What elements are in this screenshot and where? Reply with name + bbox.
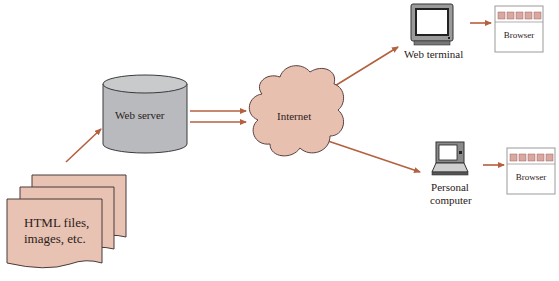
personal-computer-label-line2: computer (430, 194, 470, 207)
html-files-label-line2: images, etc. (24, 231, 89, 247)
html-files-label-line1: HTML files, (24, 215, 89, 231)
personal-computer-label-line1: Personal (430, 181, 470, 194)
web-server-label: Web server (115, 109, 165, 121)
browser-window-bottom-icon (507, 148, 555, 194)
personal-computer-laptop-icon (432, 142, 468, 175)
arrow-files-to-server (66, 129, 101, 162)
personal-computer-label: Personal computer (430, 181, 470, 207)
web-terminal-label: Web terminal (404, 48, 463, 60)
web-terminal-monitor-icon (411, 4, 453, 45)
html-files-label: HTML files, images, etc. (24, 215, 89, 247)
internet-label: Internet (277, 110, 311, 122)
arrow-internet-to-pc (325, 140, 420, 172)
browser-bottom-label: Browser (507, 172, 555, 182)
browser-window-top-icon (495, 6, 543, 52)
browser-top-label: Browser (495, 30, 543, 40)
